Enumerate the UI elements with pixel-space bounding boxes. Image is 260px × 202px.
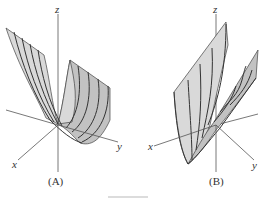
y-axis-label: y [251, 159, 257, 171]
x-axis-label: x [11, 158, 17, 170]
figure-b: z y x [130, 0, 260, 202]
z-axis-label: z [54, 3, 60, 15]
x-axis [18, 125, 58, 160]
y-axis-label: y [116, 140, 122, 152]
figure-b-plot: z y x [130, 0, 260, 202]
y-axis [216, 125, 254, 160]
figure-a: z y x [0, 0, 130, 202]
x-axis-label: x [147, 140, 153, 152]
figure-caption-truncated [108, 196, 148, 198]
caption-b: (B) [209, 175, 224, 187]
caption-a: (A) [48, 175, 63, 187]
figure-a-plot: z y x [0, 0, 130, 202]
z-axis-label: z [212, 3, 218, 15]
